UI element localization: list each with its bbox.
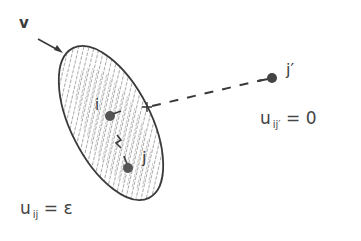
label-v: v: [19, 16, 29, 31]
equation-u-ij-prime: uij′ = 0: [260, 110, 317, 127]
eq-var: u: [20, 198, 31, 218]
label-j: j: [142, 150, 146, 166]
node-j-prime: [258, 73, 277, 83]
input-arrow: [38, 39, 63, 53]
dashed-connection: [152, 80, 262, 106]
eq-value: 0: [306, 108, 317, 128]
neighborhood-ellipse: [37, 30, 185, 216]
eq-operator: =: [286, 108, 300, 128]
eq-var: u: [260, 108, 271, 128]
eq-subscript: ij: [33, 209, 39, 220]
eq-subscript: ij′: [273, 119, 281, 130]
eq-value: ε: [63, 198, 72, 218]
eq-operator: =: [44, 198, 58, 218]
equation-u-ij: uij = ε: [20, 200, 73, 217]
label-j-prime: j′: [286, 62, 294, 78]
label-i: i: [95, 98, 99, 113]
